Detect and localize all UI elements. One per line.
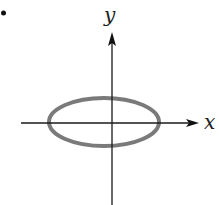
y-axis-label: y xyxy=(103,3,116,27)
ellipse-curve xyxy=(49,98,159,146)
x-axis-label: x xyxy=(204,110,215,134)
ellipse-diagram: y x xyxy=(0,0,219,205)
bullet-marker xyxy=(1,11,6,16)
